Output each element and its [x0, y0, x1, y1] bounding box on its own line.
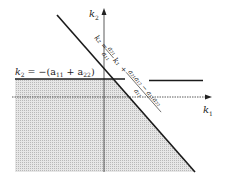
k2-axis-label: k2	[89, 8, 99, 21]
k2-arrow-icon	[102, 8, 107, 15]
k1-arrow-icon	[205, 95, 212, 100]
svg-text:k₁: k₁	[111, 56, 123, 68]
k1-axis-label: k1	[203, 104, 213, 117]
horizontal-line-equation: k2 = −(a11 + a22)	[15, 66, 95, 78]
stability-diagram: k2 k1 k2 = −(a11 + a22) k₂ = a₂₁ a₁₁ k₁ …	[0, 0, 225, 179]
shaded-stability-region	[15, 79, 195, 172]
